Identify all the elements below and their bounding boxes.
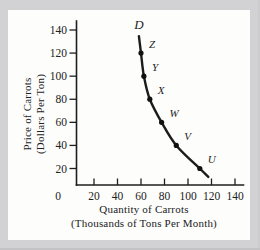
data-point-z bbox=[138, 51, 143, 56]
data-point-w bbox=[159, 120, 164, 125]
data-point-v bbox=[174, 143, 179, 148]
x-tick-label: 120 bbox=[203, 190, 221, 202]
y-tick-label: 140 bbox=[50, 24, 68, 36]
y-tick-label: 60 bbox=[56, 116, 68, 128]
y-tick-label: 100 bbox=[50, 70, 68, 82]
data-point-label-y: Y bbox=[152, 61, 160, 73]
x-tick-label: 80 bbox=[159, 190, 171, 202]
data-point-labels: ZYXWVU bbox=[149, 38, 217, 165]
figure-frame: 20406080100120140 Price of Carrots (Doll… bbox=[0, 0, 260, 250]
data-point-label-w: W bbox=[170, 107, 180, 119]
demand-curve-label: D bbox=[133, 17, 144, 32]
x-axis-title-line2: (Thousands of Tons Per Month) bbox=[71, 217, 217, 230]
y-axis-title-line2: (Dollars Per Ton) bbox=[34, 74, 47, 154]
data-point-x bbox=[147, 97, 152, 102]
y-ticks bbox=[70, 30, 77, 169]
data-point-label-v: V bbox=[184, 130, 192, 142]
y-tick-label: 40 bbox=[56, 139, 68, 151]
data-point-label-u: U bbox=[208, 153, 217, 165]
y-tick-label: 20 bbox=[56, 163, 68, 175]
x-axis-title-line1: Quantity of Carrots bbox=[99, 203, 188, 215]
x-tick-label: 20 bbox=[88, 190, 100, 202]
data-point-u bbox=[197, 166, 202, 171]
y-tick-label: 120 bbox=[50, 47, 68, 59]
x-tick-label: 100 bbox=[179, 190, 197, 202]
x-axis: 020406080100120140 Quantity of Carrots (… bbox=[55, 179, 244, 230]
x-tick-label: 60 bbox=[135, 190, 147, 202]
y-axis-title-line1: Price of Carrots bbox=[21, 78, 33, 151]
x-tick-label: 140 bbox=[226, 190, 244, 202]
x-ticks bbox=[94, 179, 235, 186]
x-tick-labels: 020406080100120140 bbox=[55, 190, 244, 202]
data-point-label-x: X bbox=[157, 84, 166, 96]
data-point-y bbox=[141, 74, 146, 79]
y-tick-label: 80 bbox=[56, 93, 68, 105]
x-tick-label: 40 bbox=[112, 190, 124, 202]
y-tick-labels: 20406080100120140 bbox=[50, 24, 68, 175]
data-point-label-z: Z bbox=[149, 38, 156, 50]
y-axis: 20406080100120140 Price of Carrots (Doll… bbox=[21, 21, 77, 185]
demand-curve-chart: 20406080100120140 Price of Carrots (Doll… bbox=[0, 0, 260, 250]
x-tick-label-origin: 0 bbox=[55, 190, 61, 202]
